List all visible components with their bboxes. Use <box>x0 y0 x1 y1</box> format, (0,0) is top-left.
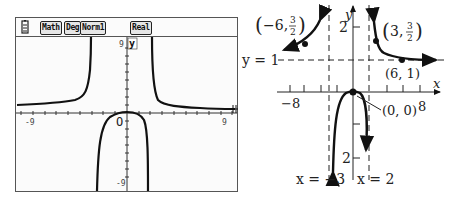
label-point-origin: (0, 0) <box>382 103 417 118</box>
svg-text:): ) <box>298 13 306 37</box>
x-axis-label: x <box>433 76 441 91</box>
label-vertical-asymptote-right: x = 2 <box>357 171 394 187</box>
label-horizontal-asymptote: y = 1 <box>241 52 279 68</box>
svg-text:(: ( <box>255 13 263 37</box>
label-point-6-1: (6, 1) <box>385 66 420 81</box>
point-6 <box>399 57 405 63</box>
svg-text:3,: 3, <box>390 23 403 39</box>
point-neg6 <box>302 41 308 47</box>
svg-text:2: 2 <box>290 27 296 37</box>
svg-text:2: 2 <box>407 33 413 43</box>
y-tick-neg2: 2 <box>342 150 351 166</box>
label-point-neg6: ( −6, 3 2 ) <box>255 13 306 37</box>
svg-text:3: 3 <box>290 15 296 25</box>
svg-text:(: ( <box>382 19 390 43</box>
x-tick-8: 8 <box>418 99 426 114</box>
label-point-3: ( 3, 3 2 ) <box>382 19 423 43</box>
textbook-graph: y x −8 8 2 2 y = 1 x = −3 x = 2 (6, 1) (… <box>0 0 453 205</box>
svg-text:−6,: −6, <box>263 17 288 33</box>
label-vertical-asymptote-left: x = −3 <box>296 171 345 187</box>
point-origin <box>350 89 357 96</box>
svg-text:3: 3 <box>407 21 413 31</box>
svg-text:): ) <box>415 19 423 43</box>
x-tick-neg8: −8 <box>281 96 300 111</box>
point-3 <box>373 38 379 44</box>
y-tick-2: 2 <box>339 19 348 35</box>
